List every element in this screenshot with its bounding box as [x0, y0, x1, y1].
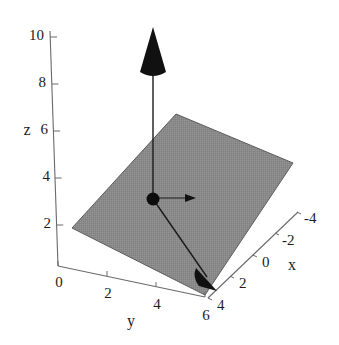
z-tick-label-8: 8	[39, 74, 47, 90]
plot-canvas: 10 8 6 4 2 z 0 2 4 6 y 4 2 0 -2 -4 x	[0, 0, 339, 345]
z-tick-label-2: 2	[44, 215, 52, 231]
x-tick-label-4: 4	[217, 297, 225, 313]
y-tick-label-4: 4	[153, 296, 161, 312]
y-tick-label-2: 2	[104, 285, 112, 301]
three-dimensional-plot: 10 8 6 4 2 z 0 2 4 6 y 4 2 0 -2 -4 x	[0, 0, 339, 345]
x-tick-label-0: 0	[262, 254, 270, 270]
y-axis-title: y	[127, 312, 135, 330]
y-tick-label-0: 0	[55, 274, 63, 290]
y-tick-label-6: 6	[202, 307, 210, 323]
x-tick-label-2: 2	[239, 275, 247, 291]
x-axis-title: x	[288, 256, 296, 273]
x-tick-label-minus4: -4	[304, 210, 317, 226]
z-tick-label-4: 4	[43, 168, 51, 184]
z-tick-label-10: 10	[29, 27, 44, 43]
x-tick-label-minus2: -2	[282, 232, 295, 248]
base-point-dot	[147, 193, 160, 206]
z-axis-title: z	[23, 121, 30, 138]
z-tick-label-6: 6	[41, 121, 49, 137]
